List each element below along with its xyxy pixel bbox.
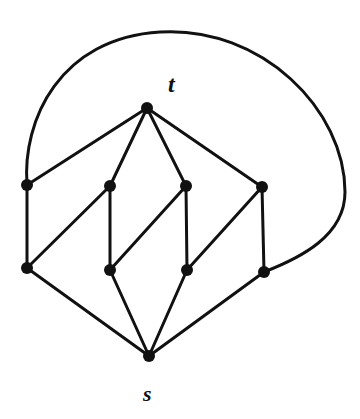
- graph-node: [258, 266, 270, 278]
- graph-figure: t s: [0, 0, 360, 419]
- graph-node: [21, 262, 33, 274]
- graph-node: [180, 180, 192, 192]
- graph-node: [21, 179, 33, 191]
- node-label-sink: t: [168, 72, 175, 96]
- edge-layer: [27, 32, 345, 356]
- node-label-source: s: [143, 383, 152, 405]
- graph-edge: [27, 268, 149, 356]
- graph-edge: [186, 186, 187, 270]
- graph-node: [256, 181, 268, 193]
- graph-edge: [27, 186, 110, 268]
- graph-edge: [110, 186, 186, 270]
- graph-node: [181, 264, 193, 276]
- graph-node: [104, 180, 116, 192]
- graph-node: [141, 102, 153, 114]
- graph-edge: [187, 187, 262, 270]
- graph-canvas: [0, 0, 360, 419]
- graph-edge: [262, 187, 264, 272]
- graph-node: [104, 264, 116, 276]
- graph-edge: [147, 108, 262, 187]
- graph-node: [143, 350, 155, 362]
